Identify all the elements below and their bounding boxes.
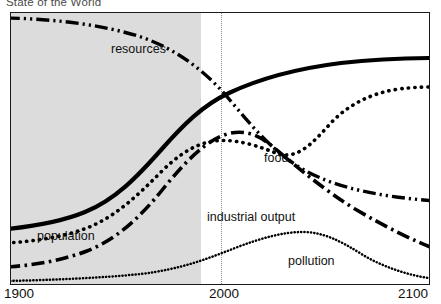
curves-layer (11, 13, 430, 285)
label-population: population (37, 229, 95, 243)
label-food: food (264, 151, 288, 165)
x-tick-2000: 2000 (209, 286, 239, 301)
x-tick-1900: 1900 (4, 286, 34, 301)
label-industrial-output: industrial output (207, 210, 295, 224)
curve-resources (11, 18, 430, 201)
plot-area: resources food industrial output populat… (10, 12, 430, 285)
figure-root: State of the World resources food indust… (0, 0, 441, 304)
label-resources: resources (111, 42, 166, 56)
figure-caption: State of the World (6, 0, 101, 8)
curve-industrial-output (11, 132, 430, 267)
label-pollution: pollution (288, 254, 335, 268)
x-tick-2100: 2100 (398, 286, 428, 301)
x-axis: 1900 2000 2100 (0, 286, 441, 304)
curve-population (11, 58, 430, 229)
